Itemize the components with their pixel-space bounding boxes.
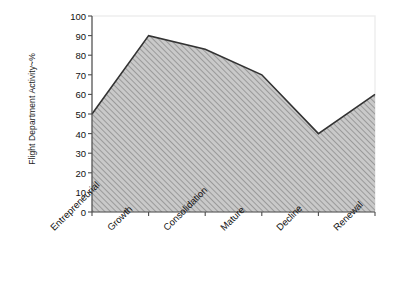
y-axis-title: Flight Department Activity~% [27, 14, 37, 204]
y-tick-label: 90 [58, 32, 86, 42]
chart-container: Flight Department Activity~% 100 90 80 7… [0, 0, 401, 292]
y-tick-label: 60 [58, 90, 86, 100]
y-tick-label: 100 [58, 12, 86, 22]
y-tick-label: 20 [58, 169, 86, 179]
y-axis-tick-labels: 100 90 80 70 60 50 40 30 20 10 0 [58, 0, 86, 292]
y-tick-label: 80 [58, 51, 86, 61]
y-tick-label: 30 [58, 149, 86, 159]
y-tick-label: 40 [58, 130, 86, 140]
y-tick-label: 50 [58, 110, 86, 120]
y-tick-label: 70 [58, 71, 86, 81]
